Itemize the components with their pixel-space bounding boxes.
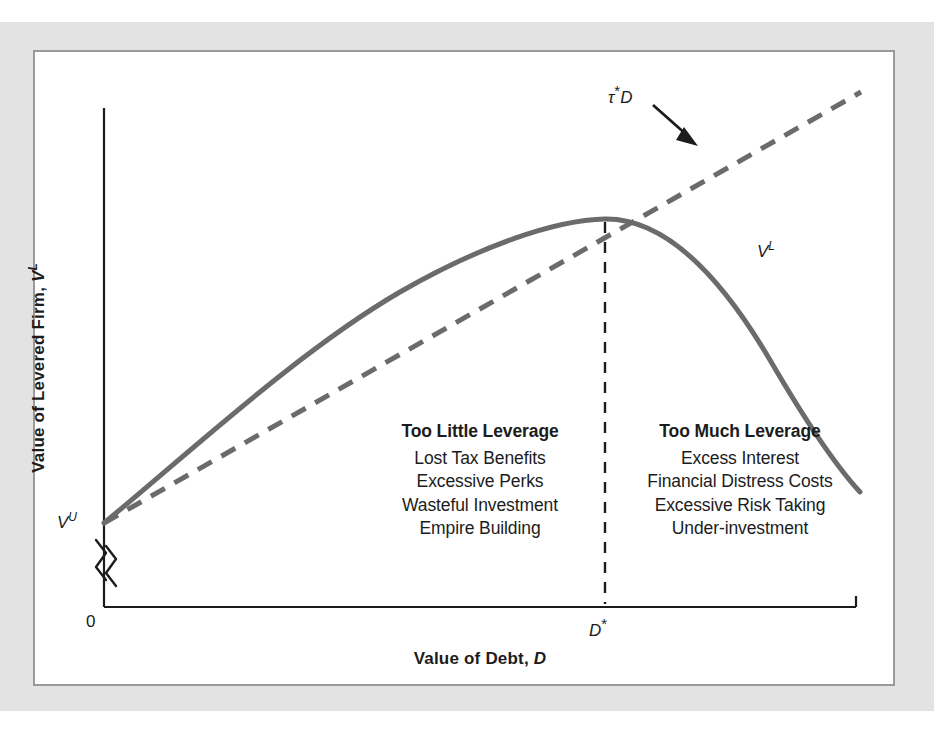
figure-panel <box>33 50 895 686</box>
note-left-line-1: Lost Tax Benefits <box>355 447 605 470</box>
x-axis-title-text: Value of Debt, <box>414 649 534 668</box>
y-axis-title-text: Value of Levered Firm, <box>29 282 48 473</box>
note-right-title: Too Much Leverage <box>615 421 865 442</box>
x-axis-dstar-label: D* <box>589 616 607 639</box>
figure-root: Value of Levered Firm, VL Value of Debt,… <box>0 0 934 732</box>
vl-curve-label: VL <box>757 240 775 260</box>
note-block-too-much-leverage: Too Much Leverage Excess Interest Financ… <box>615 421 865 540</box>
y-axis-title: Value of Levered Firm, VL <box>27 203 47 533</box>
note-right-line-2: Financial Distress Costs <box>615 470 865 493</box>
tau-d-label: τ*D <box>608 83 632 106</box>
vu-symbol: V <box>57 513 68 532</box>
note-left-line-4: Empire Building <box>355 517 605 540</box>
vu-superscript: U <box>68 510 77 524</box>
note-left-line-2: Excessive Perks <box>355 470 605 493</box>
note-right-line-3: Excessive Risk Taking <box>615 494 865 517</box>
x-axis-title-symbol: D <box>534 649 546 668</box>
note-block-too-little-leverage: Too Little Leverage Lost Tax Benefits Ex… <box>355 421 605 540</box>
dstar-asterisk: * <box>601 615 607 632</box>
tau-d-symbol: D <box>620 88 632 107</box>
note-right-line-4: Under-investment <box>615 517 865 540</box>
dstar-symbol: D <box>589 621 601 640</box>
vl-symbol: V <box>757 242 768 261</box>
vl-superscript: L <box>768 239 775 253</box>
y-axis-title-superscript: L <box>26 263 40 271</box>
y-axis-title-symbol: V <box>29 270 48 282</box>
note-right-line-1: Excess Interest <box>615 447 865 470</box>
x-axis-title: Value of Debt, D <box>104 650 856 667</box>
note-left-title: Too Little Leverage <box>355 421 605 442</box>
vu-intercept-label: VU <box>57 511 77 531</box>
x-axis-origin-label: 0 <box>86 613 95 630</box>
note-left-line-3: Wasteful Investment <box>355 494 605 517</box>
